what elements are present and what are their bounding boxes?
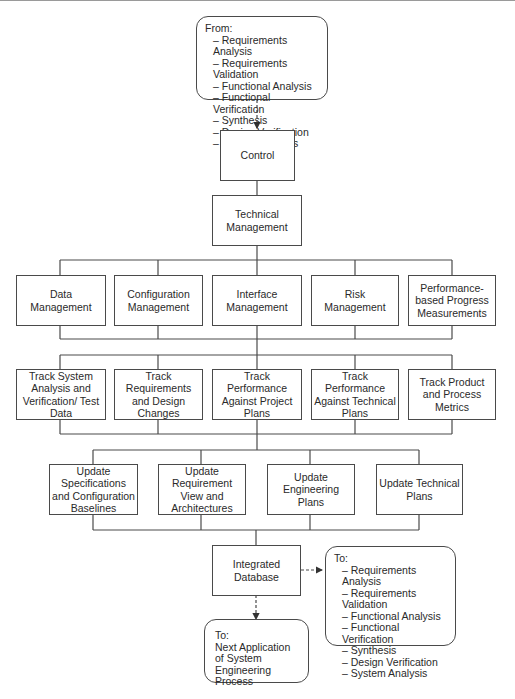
to-item: Synthesis [342,645,447,657]
from-item: Requirements Analysis [213,35,319,58]
control-box: Control [220,130,295,181]
track-metrics-box: Track Product and Process Metrics [408,369,496,420]
to-box: To: Requirements Analysis Requirements V… [325,546,456,646]
track-requirements-box: Track Requirements and Design Changes [114,369,203,420]
risk-management-box: Risk Management [311,275,399,326]
from-box: From: Requirements Analysis Requirements… [196,16,328,100]
next-application-box: To: Next Application of System Engineeri… [204,619,309,683]
from-heading: From: [205,23,319,35]
to-item: Functional Verification [342,622,447,645]
update-technical-plans-box: Update Technical Plans [376,464,463,515]
update-engineering-plans-box: Update Engineering Plans [267,464,355,515]
to-item: Requirements Validation [342,588,447,611]
from-item: Functional Verification [213,92,319,115]
to-item: Requirements Analysis [342,565,447,588]
update-requirement-view-box: Update Requirement View and Architecture… [158,464,246,515]
track-system-analysis-box: Track System Analysis and Verification/ … [16,369,106,420]
to-heading: To: [334,553,447,565]
performance-progress-box: Performance-based Progress Measurements [408,275,496,326]
update-specifications-box: Update Specifications and Configuration … [49,464,138,515]
from-item: Synthesis [213,115,319,127]
next-heading: To: [215,630,298,642]
to-list: Requirements Analysis Requirements Valid… [334,565,447,680]
configuration-management-box: Configuration Management [114,275,203,326]
to-item: System Analysis [342,668,447,680]
interface-management-box: Interface Management [212,275,302,326]
track-technical-plans-box: Track Performance Against Technical Plan… [311,369,399,420]
data-management-box: Data Management [16,275,106,326]
track-project-plans-box: Track Performance Against Project Plans [212,369,302,420]
from-item: Requirements Validation [213,58,319,81]
next-text: Next Application of System Engineering P… [215,642,298,688]
technical-management-box: Technical Management [212,195,302,246]
integrated-database-box: Integrated Database [212,545,301,596]
